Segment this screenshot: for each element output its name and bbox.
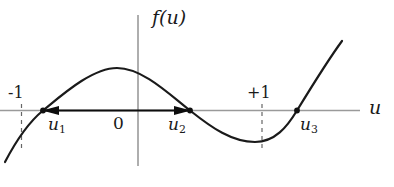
tick-label-plus-one: +1 <box>247 85 271 101</box>
y-axis-label: f(u) <box>152 8 186 27</box>
tick-label-minus-one: -1 <box>8 85 24 101</box>
root-label-u1-subscript: 1 <box>59 123 66 136</box>
origin-label: 0 <box>113 115 124 132</box>
root-marker-u1 <box>40 108 46 114</box>
function-curve <box>5 41 342 162</box>
root-label-u1: u1 <box>48 116 66 136</box>
root-label-u3-subscript: 3 <box>311 123 318 136</box>
root-label-u2-base: u <box>168 114 179 134</box>
x-axis-label: u <box>369 98 381 117</box>
root-label-u3: u3 <box>300 116 318 136</box>
root-label-u2: u2 <box>168 116 186 136</box>
plot-canvas <box>0 0 394 187</box>
root-label-u2-subscript: 2 <box>179 123 186 136</box>
caption-strip <box>0 178 394 187</box>
root-marker-u3 <box>294 108 300 114</box>
function-graph-figure: f(u) u -1 +1 0 u1 u2 u3 <box>0 0 394 187</box>
root-marker-u2 <box>187 108 193 114</box>
root-label-u3-base: u <box>300 114 311 134</box>
root-label-u1-base: u <box>48 114 59 134</box>
